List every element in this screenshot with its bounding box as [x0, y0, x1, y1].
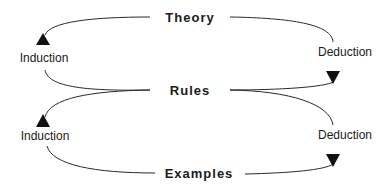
theory-label: Theory	[165, 10, 214, 25]
induction-up-arrow-icon	[36, 33, 50, 45]
theory-to-deduction-curve	[230, 17, 333, 42]
deduction-to-rules-curve	[230, 82, 333, 90]
rules-to-induction-curve	[45, 90, 150, 117]
induction-deduction-diagram: Theory Rules Examples Induction Deductio…	[0, 0, 381, 189]
induction-to-examples-curve	[47, 146, 155, 173]
examples-label: Examples	[165, 166, 234, 181]
induction-up-arrow-icon	[36, 114, 50, 127]
deduction-down-arrow-icon	[326, 71, 340, 84]
lower-induction-label: Induction	[21, 129, 70, 143]
lower-deduction-label: Deduction	[318, 128, 372, 142]
upper-deduction-label: Deduction	[318, 45, 372, 59]
upper-induction-label: Induction	[20, 51, 69, 65]
theory-to-induction-curve	[45, 17, 150, 35]
rules-to-deduction-curve	[230, 90, 333, 125]
rules-label: Rules	[170, 83, 210, 98]
deduction-down-arrow-icon	[326, 154, 340, 167]
induction-to-rules-curve	[45, 70, 150, 90]
deduction-to-examples-curve	[245, 164, 333, 174]
